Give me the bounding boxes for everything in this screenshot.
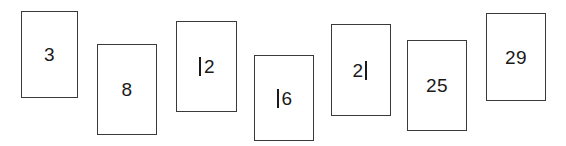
number-card: 29 bbox=[486, 13, 546, 101]
figure-canvas: 382622529 bbox=[0, 0, 566, 146]
card-number-label: 3 bbox=[44, 45, 55, 64]
card-number-label: 2 bbox=[352, 61, 369, 80]
card-number-label: 6 bbox=[275, 89, 292, 108]
number-card: 8 bbox=[97, 44, 157, 135]
number-card: 3 bbox=[21, 11, 78, 98]
digit-one-stroke bbox=[199, 57, 201, 76]
card-number-label: 2 bbox=[198, 57, 215, 76]
number-card: 6 bbox=[254, 55, 314, 141]
card-number-label: 29 bbox=[505, 48, 527, 67]
card-number-label: 8 bbox=[121, 80, 132, 99]
card-number-label: 25 bbox=[426, 76, 448, 95]
number-card: 25 bbox=[407, 40, 467, 131]
digit-one-stroke bbox=[365, 61, 367, 80]
number-card: 2 bbox=[331, 24, 391, 116]
digit-one-stroke bbox=[277, 89, 279, 108]
number-card: 2 bbox=[176, 21, 237, 112]
